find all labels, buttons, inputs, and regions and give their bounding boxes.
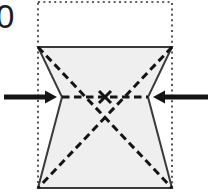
- right-compression-arrow: [153, 91, 208, 104]
- diagram-canvas: 0: [0, 0, 208, 195]
- left-compression-arrow: [4, 91, 57, 104]
- deformation-diagram: [0, 0, 208, 195]
